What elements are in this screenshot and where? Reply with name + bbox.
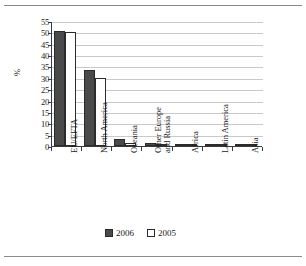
x-axis-tick-mark [202, 147, 203, 151]
bar-2006-asia[interactable] [235, 144, 246, 146]
y-axis-tick-label: 50 [30, 29, 49, 37]
y-axis-tick-mark [48, 22, 52, 23]
x-axis-label-line: North America [100, 102, 109, 153]
y-axis-tick-label: 25 [30, 86, 49, 95]
x-axis-label-line: Africa [191, 131, 200, 153]
y-axis-tick-mark [48, 102, 52, 103]
x-axis-label-line: and Russia [163, 107, 172, 153]
legend-label-2005: 2005 [158, 228, 176, 238]
x-axis-category-label: Oceania [130, 125, 139, 153]
x-axis-tick-mark [81, 147, 82, 151]
y-axis-tick-mark [48, 90, 52, 91]
bar-2006-eu-efta[interactable] [54, 31, 65, 146]
bar-2006-oceania[interactable] [114, 139, 125, 146]
legend-swatch-icon-2005 [147, 229, 155, 237]
x-axis-tick-mark [232, 147, 233, 151]
bar-2006-latin-america[interactable] [205, 144, 216, 146]
y-axis-tick-label: 15 [30, 109, 49, 118]
x-axis-tick-mark [111, 147, 112, 151]
y-axis-tick-mark [48, 136, 52, 137]
y-axis-tick-mark [48, 113, 52, 114]
y-axis-tick-mark [48, 67, 52, 68]
x-axis-label-line: Latin America [221, 104, 230, 153]
x-axis-tick-mark [141, 147, 142, 151]
y-axis-tick-label: 45 [30, 40, 49, 49]
bar-2006-north-america[interactable] [84, 70, 95, 146]
bar-2006-africa[interactable] [175, 144, 186, 146]
y-axis-tick-label: 5 [30, 131, 49, 140]
top-divider-rule [4, 5, 302, 6]
chart-legend: 2006 2005 [105, 228, 176, 238]
chart-figure: % 0510152025303540455055 2006 2005 EU/EF… [0, 0, 306, 266]
x-axis-category-label: Africa [191, 131, 200, 153]
x-axis-category-label: Asia [251, 137, 260, 153]
x-axis-label-line: Oceania [130, 125, 139, 153]
y-axis-tick-label: 40 [30, 52, 49, 61]
x-axis-category-label: Latin America [221, 104, 230, 153]
y-axis-tick-label: 10 [30, 120, 49, 129]
y-axis-tick-label: 20 [30, 97, 49, 106]
y-axis-tick-mark [48, 124, 52, 125]
x-axis-category-label: EU/EFTA [70, 119, 79, 153]
legend-item-2005[interactable]: 2005 [147, 228, 176, 238]
y-axis-tick-mark [48, 45, 52, 46]
x-axis-tick-mark [262, 147, 263, 151]
x-axis-tick-mark [51, 147, 52, 151]
legend-swatch-icon-2006 [105, 229, 113, 237]
x-axis-label-line: Asia [251, 137, 260, 153]
bar-group [235, 21, 257, 146]
y-axis-tick-mark [48, 33, 52, 34]
y-axis-tick-labels: 0510152025303540455055 [30, 22, 49, 147]
y-axis-tick-mark [48, 79, 52, 80]
bar-group [175, 21, 197, 146]
y-axis-tick-label: 0 [30, 143, 49, 152]
x-axis-tick-mark [172, 147, 173, 151]
y-axis-tick-label: 30 [30, 74, 49, 83]
x-axis-label-line: EU/EFTA [70, 119, 79, 153]
y-axis-title: % [12, 69, 22, 76]
legend-item-2006[interactable]: 2006 [105, 228, 134, 238]
y-axis-tick-mark [48, 56, 52, 57]
y-axis-tick-label: 35 [30, 63, 49, 72]
bottom-divider-rule [4, 256, 302, 257]
legend-label-2006: 2006 [116, 228, 134, 238]
x-axis-category-label: North America [100, 102, 109, 153]
y-axis-tick-label: 55 [30, 18, 49, 27]
x-axis-category-label: Other Europeand Russia [154, 107, 172, 153]
